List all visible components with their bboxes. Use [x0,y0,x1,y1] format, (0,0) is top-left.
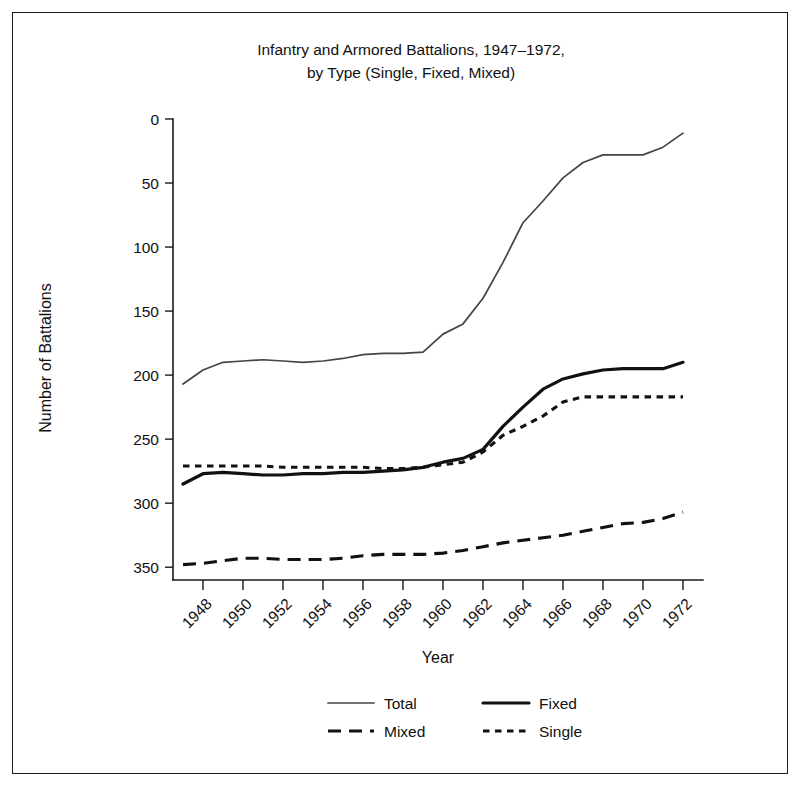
x-tick-label: 1956 [339,595,375,631]
series-line-mixed [183,512,683,565]
y-tick-label: 350 [133,559,159,576]
x-tick-label: 1948 [179,595,215,631]
x-tick-label: 1966 [539,595,575,631]
series-line-single [183,397,683,469]
battalions-line-chart: Infantry and Armored Battalions, 1947–19… [13,13,786,772]
chart-title-line-2: by Type (Single, Fixed, Mixed) [307,64,515,81]
legend-label-fixed: Fixed [539,695,577,712]
x-tick-label: 1970 [619,595,656,632]
y-tick-label: 0 [150,111,159,128]
legend-label-total: Total [384,695,417,712]
x-axis-ticks: 1948195019521954195619581960196219641966… [179,580,695,631]
y-tick-label: 200 [133,367,159,384]
chart-legend: TotalFixedMixedSingle [328,695,582,740]
x-tick-label: 1964 [499,595,536,632]
y-tick-label: 300 [133,495,159,512]
x-tick-label: 1954 [299,595,336,632]
series-paths [183,133,683,565]
x-tick-label: 1962 [459,595,495,631]
x-tick-label: 1950 [219,595,256,632]
x-tick-label: 1968 [579,595,615,631]
y-axis-ticks: 050100150200250300350 [133,111,173,576]
y-tick-label: 100 [133,239,159,256]
x-tick-label: 1952 [259,595,295,631]
y-axis-title: Number of Battalions [37,283,54,432]
legend-label-single: Single [539,723,582,740]
y-tick-label: 150 [133,303,159,320]
figure-frame: Infantry and Armored Battalions, 1947–19… [12,12,788,774]
x-tick-label: 1958 [379,595,415,631]
y-tick-label: 250 [133,431,159,448]
x-tick-label: 1972 [659,595,695,631]
chart-title-line-1: Infantry and Armored Battalions, 1947–19… [257,41,565,58]
series-line-total [183,133,683,384]
x-axis-title: Year [422,649,455,666]
x-tick-label: 1960 [419,595,456,632]
legend-label-mixed: Mixed [384,723,425,740]
y-tick-label: 50 [142,175,160,192]
